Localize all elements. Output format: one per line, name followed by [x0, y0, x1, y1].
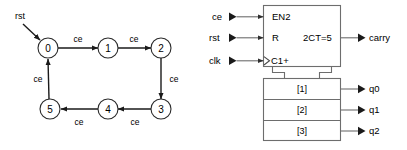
transition-2-3: ce: [161, 58, 179, 99]
input-ce-triangle-icon: [229, 13, 237, 22]
output-q1-label: q1: [369, 104, 380, 115]
state-node-5[interactable]: 5: [40, 99, 60, 119]
reset-arrow: rst: [15, 11, 40, 40]
state-node-3[interactable]: 3: [151, 99, 171, 119]
output-q0[interactable]: q0: [341, 83, 380, 94]
state-node-1-label: 1: [105, 43, 111, 54]
transition-1-2-label: ce: [130, 34, 139, 44]
state-node-5-label: 5: [47, 104, 53, 115]
output-carry[interactable]: carry: [341, 32, 391, 43]
figure-svg: rst ce ce ce ce: [0, 0, 407, 150]
array-cell-2-label: [2]: [297, 105, 307, 115]
transition-4-5-label: ce: [75, 117, 84, 127]
array-cell-1-label: [1]: [297, 84, 307, 94]
state-node-3-label: 3: [158, 104, 164, 115]
output-q1[interactable]: q1: [341, 104, 380, 115]
input-ce-label: ce: [212, 11, 222, 22]
transition-3-4: ce: [118, 109, 151, 127]
transition-4-5: ce: [61, 109, 98, 127]
input-rst-label: rst: [209, 32, 220, 43]
output-carry-label: carry: [369, 32, 390, 43]
input-clk-triangle-icon: [229, 57, 237, 66]
control-clock-label: C1+: [271, 55, 289, 66]
state-node-2-label: 2: [158, 43, 164, 54]
state-node-4[interactable]: 4: [98, 99, 118, 119]
output-q1-triangle-icon: [358, 106, 366, 115]
state-machine-panel: rst ce ce ce ce: [15, 11, 179, 127]
common-control-tabs: [273, 67, 332, 79]
state-node-1[interactable]: 1: [98, 38, 118, 58]
control-enable-label: EN2: [272, 11, 290, 22]
control-tab-right: [320, 67, 332, 79]
block-symbol-panel: ce rst clk EN2 R C1+ 2CT=5: [209, 6, 390, 141]
control-tab-left: [273, 67, 285, 79]
transition-5-0-line: [48, 59, 49, 99]
transition-5-0-label: ce: [34, 74, 43, 84]
transition-5-0: ce: [34, 59, 49, 99]
output-q0-label: q0: [369, 83, 380, 94]
output-q2-label: q2: [369, 125, 380, 136]
output-q0-triangle-icon: [358, 85, 366, 94]
reset-arrow-line: [23, 24, 40, 40]
reset-label: rst: [15, 11, 25, 21]
transition-1-2: ce: [118, 34, 151, 48]
output-carry-triangle-icon: [358, 34, 366, 43]
state-node-0-label: 0: [45, 43, 51, 54]
input-rst[interactable]: rst: [209, 32, 264, 43]
transition-2-3-label: ce: [170, 74, 179, 84]
input-clk-label: clk: [209, 55, 221, 66]
state-node-2[interactable]: 2: [151, 38, 171, 58]
figure-canvas: rst ce ce ce ce: [0, 0, 407, 150]
transition-0-1: ce: [58, 34, 98, 48]
transition-0-1-label: ce: [74, 34, 83, 44]
input-clk[interactable]: clk: [209, 55, 270, 66]
control-reset-label: R: [272, 32, 279, 43]
output-q2-triangle-icon: [358, 127, 366, 136]
array-cell-3-label: [3]: [297, 126, 307, 136]
input-ce[interactable]: ce: [212, 11, 264, 22]
transition-3-4-label: ce: [131, 117, 140, 127]
control-carry-condition-label: 2CT=5: [303, 32, 332, 43]
state-node-0[interactable]: 0: [38, 38, 58, 58]
input-rst-triangle-icon: [229, 34, 237, 43]
state-node-4-label: 4: [105, 104, 111, 115]
output-q2[interactable]: q2: [341, 125, 380, 136]
